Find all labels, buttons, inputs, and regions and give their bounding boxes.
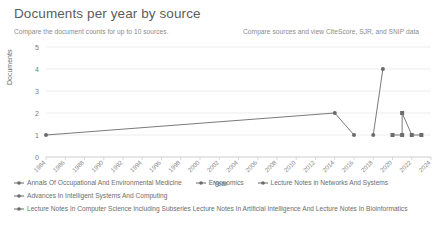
documents-per-year-panel: Documents per year by source Compare the… xyxy=(0,0,441,245)
legend-row-tertiary: Lecture Notes In Computer Science Includ… xyxy=(14,204,433,217)
legend-label: Ergonomics xyxy=(209,178,244,188)
legend-marker-icon xyxy=(14,179,24,189)
legend-item[interactable]: Ergonomics xyxy=(196,178,244,189)
x-tick-label: 1992 xyxy=(109,158,124,173)
x-tick-label: 2006 xyxy=(244,158,259,173)
y-axis-label: Documents xyxy=(6,50,13,85)
x-tick-label: 1988 xyxy=(71,158,86,173)
x-tick-label: 2008 xyxy=(263,158,278,173)
data-point-marker[interactable] xyxy=(391,133,395,137)
data-point-marker[interactable] xyxy=(400,111,404,115)
x-tick-label: 1994 xyxy=(128,158,143,173)
x-tick-label: 2012 xyxy=(302,158,317,173)
compare-sources-link[interactable]: Compare sources and view CiteScore, SJR,… xyxy=(243,28,427,35)
x-tick-label: 2018 xyxy=(359,158,374,173)
x-tick-label: 1984 xyxy=(32,158,47,173)
y-tick-label: 5 xyxy=(35,44,39,51)
data-point-marker[interactable] xyxy=(44,133,48,137)
legend-label: Lecture Notes In Computer Science Includ… xyxy=(27,204,407,214)
legend-label: Advances In Intelligent Systems And Comp… xyxy=(27,191,167,201)
x-tick-label: 2004 xyxy=(225,158,240,173)
x-tick-label: 2020 xyxy=(379,158,394,173)
subtitle-row: Compare the document counts for up to 10… xyxy=(14,28,427,35)
x-tick-label: 2016 xyxy=(340,158,355,173)
y-tick-label: 2 xyxy=(35,110,39,117)
x-tick-label: 2024 xyxy=(417,158,432,173)
data-point-marker[interactable] xyxy=(400,133,404,137)
y-tick-label: 3 xyxy=(35,88,39,95)
legend-marker-icon xyxy=(258,179,268,189)
legend-marker-icon xyxy=(14,205,24,215)
x-tick-label: 2022 xyxy=(398,158,413,173)
x-tick-label: 1986 xyxy=(51,158,66,173)
line-chart-plot: 0123451984198619881990199219941996199820… xyxy=(0,39,441,179)
x-tick-label: 2010 xyxy=(282,158,297,173)
legend-marker-icon xyxy=(196,179,206,189)
legend-item[interactable]: Lecture Notes In Computer Science Includ… xyxy=(14,204,407,215)
legend-item[interactable]: Lecture Notes in Networks And Systems xyxy=(258,178,389,189)
y-tick-label: 4 xyxy=(35,66,39,73)
legend-label: Lecture Notes in Networks And Systems xyxy=(271,178,389,188)
x-tick-label: 2002 xyxy=(205,158,220,173)
x-tick-label: 1998 xyxy=(167,158,182,173)
data-point-marker[interactable] xyxy=(410,133,414,137)
legend-item[interactable]: Advances In Intelligent Systems And Comp… xyxy=(14,191,167,202)
legend-marker-icon xyxy=(14,192,24,202)
series-line xyxy=(46,113,354,135)
chart-area: Documents 012345198419861988199019921994… xyxy=(0,39,441,191)
data-point-marker[interactable] xyxy=(333,111,337,115)
panel-subtitle: Compare the document counts for up to 10… xyxy=(14,28,169,35)
panel-header: Documents per year by source Compare the… xyxy=(0,0,441,35)
x-tick-label: 2000 xyxy=(186,158,201,173)
legend-row-primary: Annals Of Occupational And Environmental… xyxy=(14,178,433,191)
data-point-marker[interactable] xyxy=(371,133,375,137)
data-point-marker[interactable] xyxy=(352,133,356,137)
data-point-marker[interactable] xyxy=(419,133,423,137)
legend-item[interactable]: Annals Of Occupational And Environmental… xyxy=(14,178,182,189)
series-line xyxy=(373,69,383,135)
data-point-marker[interactable] xyxy=(381,67,385,71)
y-tick-label: 0 xyxy=(35,154,39,161)
x-tick-label: 2014 xyxy=(321,158,336,173)
y-tick-label: 1 xyxy=(35,132,39,139)
page-title: Documents per year by source xyxy=(14,6,427,22)
chart-legend: Annals Of Occupational And Environmental… xyxy=(14,178,433,217)
x-tick-label: 1996 xyxy=(148,158,163,173)
legend-row-secondary: Advances In Intelligent Systems And Comp… xyxy=(14,191,433,204)
series-line xyxy=(393,113,422,135)
legend-label: Annals Of Occupational And Environmental… xyxy=(27,178,182,188)
x-tick-label: 1990 xyxy=(90,158,105,173)
